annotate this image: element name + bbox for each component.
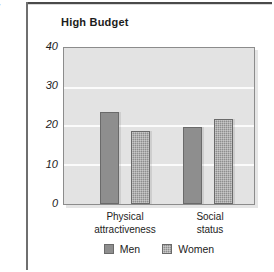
bar-women-social-status (214, 119, 233, 204)
bar-men-social-status (183, 127, 202, 204)
legend-label-men: Men (120, 243, 140, 255)
legend-swatch-women-icon (162, 244, 172, 254)
x-tick-label-social-status: Social status (165, 210, 255, 236)
legend-swatch-men-icon (104, 244, 114, 254)
x-tick-label-line-2: attractiveness (80, 223, 170, 236)
legend-item-men: Men (104, 243, 140, 255)
x-tick-label-line-2: status (165, 223, 255, 236)
chart-legend: Men Women (63, 243, 255, 255)
legend-item-women: Women (162, 243, 214, 255)
legend-label-women: Women (178, 243, 214, 255)
bar-women-physical-attractiveness (131, 131, 150, 204)
y-tick-label-40: 40 (32, 40, 58, 52)
frame-top-border-shadow (26, 4, 272, 5)
x-tick-label-line-1: Physical (80, 210, 170, 223)
plot-area (63, 47, 255, 205)
chart-title: High Budget (61, 16, 129, 28)
x-tick-label-line-1: Social (165, 210, 255, 223)
y-tick-label-0: 0 (32, 197, 58, 209)
y-axis-title: Percentage of money spent (0, 0, 2, 28)
bar-men-physical-attractiveness (100, 112, 119, 204)
frame-left-border (26, 2, 28, 270)
y-tick-label-30: 30 (32, 79, 58, 91)
bars-layer (64, 48, 254, 204)
y-tick-label-20: 20 (32, 118, 58, 130)
figure-container: High Budget Percentage of money spent 40… (0, 0, 274, 272)
x-tick-label-physical-attractiveness: Physical attractiveness (80, 210, 170, 236)
y-tick-label-10: 10 (32, 158, 58, 170)
